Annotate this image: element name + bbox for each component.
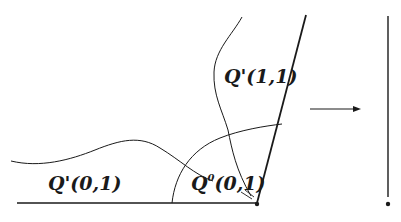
label-q1-11: Q'(1,1) <box>224 65 297 87</box>
label-q1-01: Q'(0,1) <box>48 172 121 194</box>
vertex-dot <box>255 202 259 206</box>
arrow-head-icon <box>353 106 361 112</box>
label-q0-01-sup: 0 <box>208 172 215 183</box>
label-q0-01-base: Q <box>191 172 208 194</box>
diagram-canvas: Q'(1,1) Q'(0,1) Q0(0,1) <box>0 0 401 222</box>
label-q0-01-rest: (0,1) <box>215 172 266 194</box>
label-q0-01: Q0(0,1) <box>191 172 266 194</box>
right-vertical-dot <box>386 202 390 206</box>
curve-upper-boundary <box>214 17 251 196</box>
